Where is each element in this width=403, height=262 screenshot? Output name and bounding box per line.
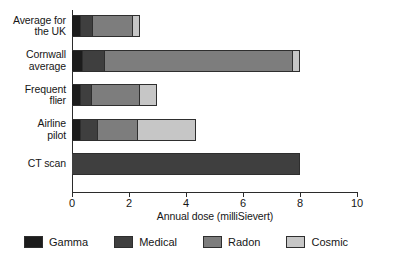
legend-swatch-icon [286,236,305,248]
bar-segment-medical [83,50,104,72]
y-axis-label: Cornwallaverage [0,49,66,72]
x-axis-tick-label: 6 [228,197,258,209]
y-axis-label: Average forthe UK [0,15,66,38]
bar-segment-medical [81,15,94,37]
x-axis-tick-label: 2 [114,197,144,209]
legend-item[interactable]: Gamma [24,236,88,248]
legend-label: Medical [139,236,177,248]
legend-swatch-icon [114,236,133,248]
x-axis-tick-label: 4 [171,197,201,209]
legend-label: Gamma [49,236,88,248]
x-axis-tick-label: 8 [285,197,315,209]
chart-legend: GammaMedicalRadonCosmic [24,232,380,252]
x-axis-title: Annual dose (milliSievert) [72,210,358,222]
x-axis-tick-label: 0 [57,197,87,209]
legend-item[interactable]: Medical [114,236,177,248]
bar-row [72,153,300,175]
bar-segment-cosmic [293,50,300,72]
y-axis-label: Frequentflier [0,84,66,107]
bar-segment-gamma [72,15,81,37]
bar-row [72,15,140,37]
bar-segment-radon [93,15,133,37]
bar-segment-gamma [72,119,81,141]
y-axis-label-line: average [0,61,66,73]
bar-segment-radon [92,84,140,106]
y-axis-label-line: pilot [0,130,66,142]
bar-segment-cosmic [138,119,196,141]
x-axis-line [72,192,358,193]
y-axis-label-line: flier [0,95,66,107]
y-axis-label: Airlinepilot [0,118,66,141]
plot-area [72,10,357,190]
legend-swatch-icon [203,236,222,248]
radiation-dose-chart: Average forthe UKCornwallaverageFrequent… [0,0,403,262]
bar-segment-gamma [72,50,83,72]
legend-label: Cosmic [311,236,348,248]
y-axis-category-labels: Average forthe UKCornwallaverageFrequent… [0,0,66,190]
y-axis-label: CT scan [0,158,66,170]
bar-segment-gamma [72,84,81,106]
legend-label: Radon [228,236,260,248]
legend-item[interactable]: Radon [203,236,260,248]
bar-segment-medical [81,119,98,141]
y-axis-label-line: Airline [0,118,66,130]
bar-segment-radon [98,119,138,141]
x-axis-tick-label: 10 [342,197,372,209]
legend-swatch-icon [24,236,43,248]
bar-row [72,50,300,72]
y-axis-label-line: Cornwall [0,49,66,61]
bar-segment-medical [72,153,300,175]
legend-item[interactable]: Cosmic [286,236,348,248]
bar-segment-medical [81,84,92,106]
bar-segment-cosmic [133,15,140,37]
bar-segment-radon [105,50,293,72]
bar-row [72,84,157,106]
y-axis-label-line: the UK [0,26,66,38]
bar-segment-cosmic [140,84,157,106]
bar-row [72,119,196,141]
y-axis-label-line: CT scan [0,158,66,170]
